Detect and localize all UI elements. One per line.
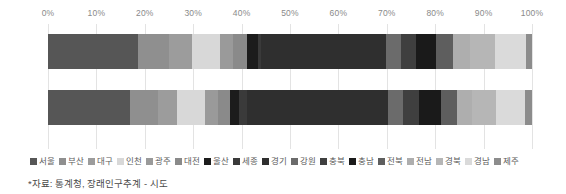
legend-item[interactable]: 전북 <box>378 157 403 166</box>
x-tick-label: 60% <box>330 8 348 18</box>
legend-label: 대전 <box>184 157 200 166</box>
bar-segment[interactable] <box>247 34 258 69</box>
legend-item[interactable]: 서울 <box>30 157 55 166</box>
legend-swatch-icon <box>291 158 298 165</box>
bar-segment[interactable] <box>48 34 138 69</box>
x-tick-label: 0% <box>42 8 55 18</box>
stacked-bar-2020[interactable] <box>48 34 532 69</box>
stacked-bar-chart: 0%10%20%30%40%50%60%70%80%90%100% 2020 2… <box>0 0 566 194</box>
x-tick-label: 20% <box>136 8 154 18</box>
legend-swatch-icon <box>407 158 414 165</box>
legend-swatch-icon <box>465 158 472 165</box>
bar-segment[interactable] <box>457 90 473 125</box>
legend-swatch-icon <box>320 158 327 165</box>
legend-label: 경남 <box>474 157 490 166</box>
bar-row-2050 <box>48 90 532 125</box>
legend-swatch-icon <box>146 158 153 165</box>
x-tick-label: 80% <box>426 8 444 18</box>
bar-segment[interactable] <box>416 34 436 69</box>
legend-label: 경북 <box>445 157 461 166</box>
legend: 서울부산대구인천광주대전울산세종경기강원충북충남전북전남경북경남제주 <box>30 157 550 166</box>
legend-item[interactable]: 경북 <box>436 157 461 166</box>
legend-label: 대구 <box>97 157 113 166</box>
legend-label: 제주 <box>503 157 519 166</box>
bar-segment[interactable] <box>230 90 239 125</box>
x-tick-label: 50% <box>281 8 299 18</box>
bar-segment[interactable] <box>470 34 495 69</box>
legend-swatch-icon <box>349 158 356 165</box>
legend-item[interactable]: 충남 <box>349 157 374 166</box>
bar-segment[interactable] <box>48 90 130 125</box>
bar-segment[interactable] <box>441 90 456 125</box>
legend-item[interactable]: 경남 <box>465 157 490 166</box>
legend-label: 울산 <box>213 157 229 166</box>
bar-segment[interactable] <box>169 34 192 69</box>
legend-swatch-icon <box>175 158 182 165</box>
legend-swatch-icon <box>233 158 240 165</box>
bar-segment[interactable] <box>158 90 178 125</box>
legend-swatch-icon <box>59 158 66 165</box>
x-axis-tick-labels: 0%10%20%30%40%50%60%70%80%90%100% <box>48 8 532 22</box>
gridline <box>532 24 533 149</box>
x-tick-label: 30% <box>184 8 202 18</box>
legend-item[interactable]: 인천 <box>117 157 142 166</box>
bar-segment[interactable] <box>436 34 453 69</box>
bar-segment[interactable] <box>177 90 205 125</box>
bar-segment[interactable] <box>495 34 526 69</box>
legend-item[interactable]: 강원 <box>291 157 316 166</box>
legend-label: 부산 <box>68 157 84 166</box>
legend-item[interactable]: 광주 <box>146 157 171 166</box>
legend-label: 세종 <box>242 157 258 166</box>
bar-segment[interactable] <box>261 34 386 69</box>
legend-item[interactable]: 울산 <box>204 157 229 166</box>
bar-segment[interactable] <box>419 90 441 125</box>
legend-item[interactable]: 경기 <box>262 157 287 166</box>
bar-segment[interactable] <box>192 34 220 69</box>
bar-segment[interactable] <box>525 90 532 125</box>
legend-label: 전남 <box>416 157 432 166</box>
bar-segment[interactable] <box>130 90 158 125</box>
legend-item[interactable]: 대구 <box>88 157 113 166</box>
bar-segment[interactable] <box>453 34 470 69</box>
bar-segment[interactable] <box>218 90 230 125</box>
bar-segment[interactable] <box>472 90 495 125</box>
legend-label: 강원 <box>300 157 316 166</box>
bar-segment[interactable] <box>239 90 247 125</box>
legend-swatch-icon <box>436 158 443 165</box>
legend-label: 충북 <box>329 157 345 166</box>
x-tick-label: 70% <box>378 8 396 18</box>
bar-segment[interactable] <box>496 90 525 125</box>
legend-label: 충남 <box>358 157 374 166</box>
x-tick-label: 10% <box>88 8 106 18</box>
legend-swatch-icon <box>30 158 37 165</box>
legend-item[interactable]: 세종 <box>233 157 258 166</box>
bar-segment[interactable] <box>138 34 169 69</box>
bar-segment[interactable] <box>401 34 416 69</box>
legend-item[interactable]: 부산 <box>59 157 84 166</box>
bar-segment[interactable] <box>205 90 217 125</box>
legend-swatch-icon <box>117 158 124 165</box>
x-tick-label: 100% <box>521 8 544 18</box>
stacked-bar-2050[interactable] <box>48 90 532 125</box>
bar-segment[interactable] <box>247 90 388 125</box>
legend-item[interactable]: 충북 <box>320 157 345 166</box>
bar-segment[interactable] <box>233 34 247 69</box>
bar-segment[interactable] <box>220 34 234 69</box>
legend-item[interactable]: 전남 <box>407 157 432 166</box>
legend-item[interactable]: 대전 <box>175 157 200 166</box>
bar-segment[interactable] <box>386 34 401 69</box>
x-tick-label: 90% <box>475 8 493 18</box>
bar-row-2020 <box>48 34 532 69</box>
x-tick-label: 40% <box>233 8 251 18</box>
bar-segment[interactable] <box>403 90 419 125</box>
legend-item[interactable]: 제주 <box>494 157 519 166</box>
legend-label: 광주 <box>155 157 171 166</box>
legend-swatch-icon <box>494 158 501 165</box>
legend-swatch-icon <box>262 158 269 165</box>
legend-swatch-icon <box>204 158 211 165</box>
bar-segment[interactable] <box>526 34 532 69</box>
legend-swatch-icon <box>378 158 385 165</box>
bar-segment[interactable] <box>388 90 403 125</box>
source-footnote: *자료: 통계청, 장래인구추계 - 시도 <box>28 176 168 190</box>
legend-label: 전북 <box>387 157 403 166</box>
